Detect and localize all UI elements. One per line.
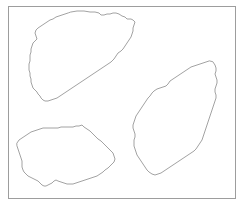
region-outline-figure	[0, 0, 244, 208]
region-outline-upper-left	[29, 11, 135, 101]
region-outline-right	[133, 61, 217, 175]
region-outline-lower-left	[17, 125, 115, 186]
figure-canvas	[0, 0, 244, 208]
